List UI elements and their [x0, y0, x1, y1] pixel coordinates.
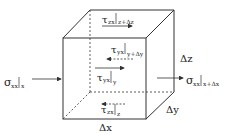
svg-text:z+Δz: z+Δz	[118, 18, 134, 25]
svg-text:z: z	[117, 110, 120, 117]
svg-text:xx: xx	[193, 80, 200, 87]
svg-text:y: y	[112, 78, 117, 86]
tau-yx-far-label: τ yx y+Δy	[111, 43, 144, 58]
svg-text:y+Δy: y+Δy	[126, 50, 144, 58]
sigma-left-label: σ xx x	[4, 76, 25, 89]
svg-text:x+Δx: x+Δx	[203, 80, 220, 87]
svg-text:yx: yx	[116, 48, 124, 56]
cube-diagram: σ xx x σ xx x+Δx τ zx z+Δz τ yx y+Δy τ y…	[0, 0, 228, 140]
tau-yx-near-label: τ yx y	[97, 71, 117, 86]
dy-label: Δy	[166, 104, 179, 115]
right-face	[146, 10, 174, 119]
svg-text:zx: zx	[107, 108, 114, 115]
dx-label: Δx	[99, 122, 112, 133]
svg-text:yx: yx	[102, 76, 110, 84]
dz-label: Δz	[180, 53, 193, 64]
tau-top-label: τ zx z+Δz	[102, 13, 134, 25]
tau-bottom-label: τ zx z	[101, 104, 120, 117]
sigma-right-label: σ xx x+Δx	[186, 74, 220, 87]
svg-text:x: x	[21, 82, 25, 89]
svg-text:zx: zx	[108, 18, 115, 25]
svg-text:xx: xx	[11, 82, 18, 89]
